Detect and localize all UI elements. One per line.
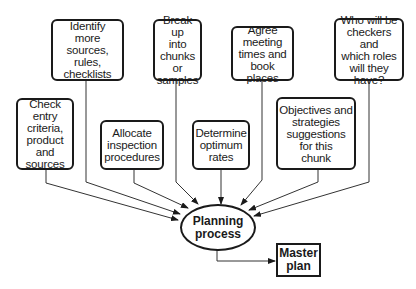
input-label: Identify more sources, rules, checklists xyxy=(54,20,121,80)
process-label: Planning process xyxy=(193,215,244,241)
master-plan-node: Master plan xyxy=(276,243,321,277)
planning-process-node: Planning process xyxy=(180,204,256,251)
input-label: Break up into chunks or samples xyxy=(156,14,199,86)
input-label: Check entry criteria, product and source… xyxy=(19,98,71,170)
input-label: Who will be checkers and which roles wil… xyxy=(337,14,401,86)
input-box-allocate-procedures: Allocate inspection procedures xyxy=(100,120,164,170)
input-box-checkers-roles: Who will be checkers and which roles wil… xyxy=(334,18,404,81)
input-label: Allocate inspection procedures xyxy=(104,127,160,163)
input-box-determine-rates: Determine optimum rates xyxy=(192,120,250,170)
input-box-agree-meeting: Agree meeting times and book places xyxy=(231,26,294,81)
input-label: Objectives and strategies suggestions fo… xyxy=(279,104,352,164)
input-label: Agree meeting times and book places xyxy=(234,24,291,84)
input-box-break-up-chunks: Break up into chunks or samples xyxy=(153,19,202,81)
output-label: Master plan xyxy=(279,247,318,273)
input-box-identify-sources: Identify more sources, rules, checklists xyxy=(51,19,124,81)
input-box-objectives-strategies: Objectives and strategies suggestions fo… xyxy=(276,97,356,170)
input-label: Determine optimum rates xyxy=(195,127,246,163)
input-box-check-entry: Check entry criteria, product and source… xyxy=(16,98,74,170)
